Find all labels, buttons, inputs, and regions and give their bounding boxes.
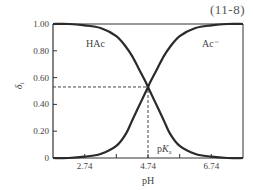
pka-guides bbox=[53, 87, 148, 158]
y-axis-label: δi bbox=[13, 83, 25, 90]
ticks: 00.200.400.600.801.002.744.746.74 bbox=[33, 19, 219, 171]
x-tick-label: 4.74 bbox=[140, 161, 156, 171]
y-tick-label: 0.20 bbox=[33, 126, 49, 136]
label-hac: HAc bbox=[86, 38, 105, 49]
x-tick-label: 6.74 bbox=[203, 161, 219, 171]
y-tick-label: 0.60 bbox=[33, 73, 49, 83]
distribution-chart: 00.200.400.600.801.002.744.746.74 HAc Ac… bbox=[0, 0, 253, 190]
label-ac: Ac⁻ bbox=[202, 38, 219, 49]
y-tick-label: 0 bbox=[45, 153, 50, 163]
y-tick-label: 1.00 bbox=[33, 19, 49, 29]
x-axis-label: pH bbox=[142, 175, 154, 186]
label-pka: pKa bbox=[157, 143, 172, 155]
y-tick-label: 0.40 bbox=[33, 99, 49, 109]
x-tick-label: 2.74 bbox=[77, 161, 93, 171]
y-tick-label: 0.80 bbox=[33, 46, 49, 56]
